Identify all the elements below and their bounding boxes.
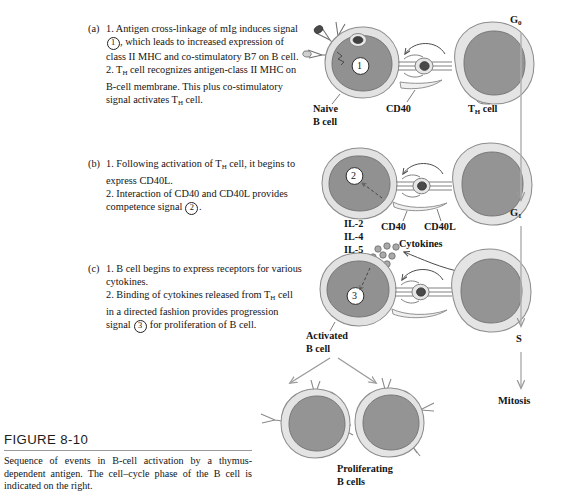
circled-number-2: 2 [185, 202, 198, 215]
cd40-label-row-a: CD40 [386, 103, 411, 115]
step-b-point-2-post: . [199, 201, 202, 212]
feedback-arrow-a [405, 44, 445, 55]
row-b-cells [322, 143, 532, 225]
step-b-label: (b) [88, 157, 106, 170]
cd40-leader-b [403, 211, 407, 221]
naive-b-cell-label-line2: B cell [313, 116, 337, 128]
step-c-point-2-c: for proliferation of B cell. [147, 319, 256, 330]
cd40-cd40l-ribbon-b [393, 202, 447, 211]
figure-number: FIGURE 8-10 [4, 432, 252, 450]
step-c-label: (c) [88, 262, 106, 275]
proliferation-arrows [290, 358, 376, 383]
proliferating-b-cells-label-line1: Proliferating [337, 463, 393, 475]
circled-number-1: 1 [107, 37, 120, 50]
activated-b-cell-label-line1: Activated [306, 330, 348, 342]
naive-b-cell-label-line1: Naive [313, 103, 338, 115]
step-a-text-block: (a) 1. Antigen cross-linkage of mIg indu… [88, 22, 303, 110]
b-cell-nucleus-b [329, 156, 390, 211]
il2-label: IL-2 [344, 218, 363, 230]
cytokines-label: Cytokines [399, 238, 443, 250]
step-c-text-block: (c) 1. B cell begins to express receptor… [88, 262, 303, 333]
step-a-point-2-c: cell. [183, 94, 203, 105]
proliferating-b-cells-label-line2: B cells [337, 476, 365, 488]
figure-caption-area: FIGURE 8-10 Sequence of events in B-cell… [4, 432, 252, 493]
cd40l-label-row-b: CD40L [424, 221, 456, 233]
proliferating-b-cells [261, 378, 434, 458]
step-a-point-1-pre: 1. Antigen cross-linkage of mIg induces … [106, 23, 298, 34]
g1-letter: G [510, 207, 518, 218]
g0-subscript: 0 [518, 19, 522, 27]
step-a-point-2: 2. TH cell recognizes antigen-class II M… [106, 63, 303, 110]
signal-number-2-text: 2 [351, 170, 356, 182]
figure-caption-text: Sequence of events in B-cell activation … [4, 455, 252, 493]
processed-antigen [353, 36, 363, 43]
cell-cycle-label-s: S [516, 333, 522, 344]
row-a-cells [302, 22, 534, 104]
proliferating-b-cell-left-nucleus [289, 396, 345, 451]
proliferating-b-cell-right-nucleus [363, 395, 419, 450]
step-b-text-block: (b) 1. Following activation of TH cell, … [88, 157, 303, 215]
step-c-point-2-a: 2. Binding of cytokines released from T [106, 289, 270, 300]
cd40-ribbon-a [400, 80, 442, 89]
step-a-point-1-post: , which leads to increased expression of… [106, 36, 298, 62]
cell-cycle-label-mitosis: Mitosis [498, 395, 530, 406]
signal-number-1-text: 1 [357, 60, 362, 72]
step-b-point-1-a: 1. Following activation of T [106, 158, 222, 169]
cell-cycle-label-g0: G0 [510, 14, 522, 27]
feedback-arrow-c [402, 270, 443, 281]
cd40-cd40l-ribbon-c [392, 309, 447, 318]
th-cell-label-row-a: TH cell [468, 103, 497, 118]
step-b-point-1: 1. Following activation of TH cell, it b… [106, 157, 303, 187]
th-label-a-pre: T [468, 103, 475, 114]
figure-root: (a) 1. Antigen cross-linkage of mIg indu… [0, 0, 571, 500]
mhc-tcr-bridge-a [398, 55, 452, 77]
th-cell-nucleus-c [461, 259, 522, 323]
g0-letter: G [510, 14, 518, 25]
step-a-label: (a) [88, 22, 106, 35]
step-c-point-1: 1. B cell begins to express receptors fo… [106, 262, 303, 288]
cd40l-leader-b [437, 209, 441, 221]
mhc-tcr-bridge-b [396, 175, 452, 197]
antigen-particle [313, 24, 324, 34]
il5-label: IL-5 [344, 244, 363, 256]
cd40-leader-a [407, 90, 415, 102]
step-c-point-2: 2. Binding of cytokines released from TH… [106, 288, 303, 333]
caption-divider [4, 450, 252, 451]
step-b-point-2: 2. Interaction of CD40 and CD40L provide… [106, 187, 303, 215]
th-label-a-post: cell [480, 103, 497, 114]
cd40-label-row-b: CD40 [381, 221, 406, 233]
activated-b-cell-label-line2: B cell [306, 343, 330, 355]
il4-label: IL-4 [344, 231, 363, 243]
feedback-arrow-b [403, 164, 443, 175]
step-a-point-1: 1. Antigen cross-linkage of mIg induces … [106, 22, 303, 63]
g1-subscript: 1 [518, 212, 522, 220]
th-cell-nucleus-a [464, 31, 525, 95]
circled-number-3: 3 [134, 320, 147, 333]
step-a-point-2-a: 2. T [106, 64, 122, 75]
signal-number-3-text: 3 [352, 290, 357, 302]
cell-cycle-label-g1: G1 [510, 207, 522, 220]
mhc-tcr-bridge-c [395, 281, 452, 303]
